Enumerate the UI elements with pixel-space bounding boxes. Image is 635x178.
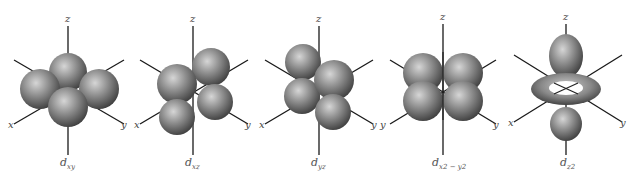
x-label: x xyxy=(508,117,514,128)
orbital-dxy: z x y dxy xyxy=(8,13,127,171)
orbital-dx2-y2: z y y dx2 − y2 xyxy=(379,11,499,171)
z-label: z xyxy=(315,13,322,24)
x-label: x xyxy=(259,119,265,130)
lobe xyxy=(403,81,443,121)
y-label: y xyxy=(120,119,127,130)
orbital-dyz: z x y dyz xyxy=(259,13,377,171)
orbital-caption: dyz xyxy=(311,156,326,171)
lobe xyxy=(48,87,88,127)
lobe xyxy=(159,99,195,135)
lobe xyxy=(192,48,230,86)
z-label: z xyxy=(189,13,196,24)
lobe xyxy=(314,60,354,100)
z-label: z xyxy=(562,11,569,22)
d-orbitals-diagram: z x y dxy z x y dxz z x y dyz xyxy=(0,0,635,178)
z-label: z xyxy=(439,11,446,22)
orbital-caption: dxy xyxy=(60,156,76,171)
orbital-caption: dx2 − y2 xyxy=(432,156,467,171)
y-label: y xyxy=(370,119,377,130)
lobe xyxy=(443,81,483,121)
y-label: y xyxy=(619,117,626,128)
orbital-dxz: z x y dxz xyxy=(134,13,251,171)
orbital-dz2: z x y dz2 xyxy=(508,11,626,171)
y-label: y xyxy=(244,119,251,130)
orbital-caption: dz2 xyxy=(560,156,576,171)
lobe xyxy=(157,64,197,104)
top-lobe xyxy=(549,34,583,78)
y-label: y xyxy=(492,119,499,130)
bottom-lobe xyxy=(550,107,582,141)
x-label: x xyxy=(134,119,140,130)
z-label: z xyxy=(64,13,71,24)
lobe xyxy=(315,94,351,130)
y-label: y xyxy=(379,119,386,130)
orbital-caption: dxz xyxy=(185,156,200,171)
x-label: x xyxy=(8,119,14,130)
lobe xyxy=(197,84,233,120)
